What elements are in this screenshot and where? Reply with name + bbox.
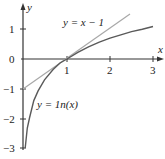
x-tick-label-1: 1 [64,64,70,76]
x-axis-arrow-icon [157,57,164,62]
x-tick-label-2: 2 [107,64,113,76]
chart: 1 2 3 1 0 −1 −2 −3 y x y = x − 1 y = 1n(… [0,0,165,159]
log-curve-annotation: y = 1n(x) [36,98,78,111]
y-tick-label-1: 1 [9,23,15,35]
y-axis-label: y [26,1,32,13]
y-axis-arrow-icon [21,3,26,10]
y-tick-label-0: 0 [9,53,15,65]
log-curve-series [25,27,153,149]
y-tick-label-m3: −3 [3,142,15,154]
y-tick-label-m1: −1 [3,83,15,95]
y-tick-label-m2: −2 [3,113,15,125]
tangent-line-annotation: y = x − 1 [62,16,104,28]
x-axis-label: x [157,43,163,55]
x-tick-label-3: 3 [150,64,156,76]
